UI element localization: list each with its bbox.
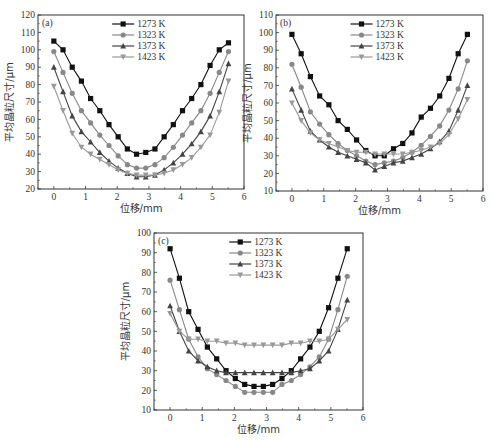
square-marker [345,246,350,251]
circle-marker [198,108,203,113]
x-tick-label: 1 [200,413,205,423]
series-1423-K [51,79,231,179]
square-marker [167,246,172,251]
y-tick-label: 60 [142,307,152,317]
x-tick-label: 6 [242,192,247,202]
circle-marker [317,122,322,127]
square-marker [307,344,312,349]
x-tick-label: 3 [264,413,269,423]
square-marker [214,356,219,361]
circle-marker [51,49,56,54]
circle-marker [152,162,157,167]
circle-marker [251,390,256,395]
series-1323-K [51,49,231,171]
triangle-down-marker [180,162,186,168]
triangle-up-marker [79,128,85,134]
x-tick-label: 4 [417,194,422,204]
square-marker [51,39,56,44]
x-tick-label: 4 [296,413,301,423]
circle-marker [180,132,185,137]
x-tick-label: 5 [449,194,454,204]
square-marker [70,65,75,70]
x-tick-label: 0 [51,192,56,202]
y-tick-label: 100 [259,28,274,38]
chart-panel-c: 1020304050607080901000123456位移/mm平均晶粒尺寸/… [119,228,366,435]
legend: 1273 K1323 K1373 K1423 K [112,19,165,62]
circle-marker [372,162,377,167]
square-marker [198,82,203,87]
legend-entry: 1323 K [137,30,165,40]
square-marker [336,118,341,123]
chart-panel-b: 1020304050607080901001100123456位移/mm平均晶粒… [241,10,486,216]
triangle-down-marker [106,162,112,168]
chart-panel-a: 20304050607080901001101200123456位移/mm平均晶… [3,10,247,214]
square-marker [177,276,182,281]
y-tick-label: 60 [264,98,274,108]
legend: 1273 K1323 K1373 K1423 K [351,19,404,62]
square-marker [134,152,139,157]
square-marker [335,276,340,281]
square-marker [400,141,405,146]
series-1423-K [289,97,470,157]
square-marker [121,21,126,26]
circle-marker [189,120,194,125]
y-tick-label: 20 [142,386,152,396]
square-marker [279,376,284,381]
square-marker [88,96,93,101]
y-tick-label: 80 [264,63,274,73]
x-tick-label: 6 [481,194,486,204]
circle-marker [121,32,126,37]
triangle-up-marker [60,88,66,94]
square-marker [195,327,200,332]
square-marker [79,79,84,84]
triangle-down-marker [464,97,470,103]
circle-marker [428,134,433,139]
circle-marker [261,390,266,395]
circle-marker [456,86,461,91]
square-marker [326,305,331,310]
square-marker [456,51,461,56]
y-tick-label: 30 [142,366,152,376]
y-tick-label: 20 [26,184,36,194]
legend-entry: 1373 K [376,41,404,51]
x-tick-label: 5 [328,413,333,423]
y-tick-label: 50 [142,327,152,337]
circle-marker [60,70,65,75]
y-tick-label: 70 [142,287,152,297]
x-tick-label: 2 [232,413,237,423]
circle-marker [207,91,212,96]
square-marker [60,47,65,52]
triangle-down-marker [167,311,173,317]
triangle-down-marker [88,152,94,158]
x-axis-label: 位移/mm [358,204,401,216]
x-tick-label: 1 [321,194,326,204]
square-marker [180,108,185,113]
y-axis-label: 平均晶粒尺寸/μm [3,62,15,141]
figure-caption-faded [150,430,380,442]
triangle-up-marker [289,86,295,92]
square-marker [251,384,256,389]
circle-marker [419,143,424,148]
circle-marker [289,62,294,67]
circle-marker [223,378,228,383]
circle-marker [116,153,121,158]
x-tick-label: 6 [361,413,366,423]
triangle-up-marker [455,107,461,113]
series-1323-K [167,274,349,395]
triangle-up-marker [207,113,213,119]
square-marker [217,47,222,52]
circle-marker [299,85,304,90]
legend-entry: 1423 K [254,270,282,280]
square-marker [354,137,359,142]
circle-marker [345,274,350,279]
circle-marker [162,155,167,160]
y-tick-label: 80 [142,268,152,278]
legend-entry: 1373 K [137,41,165,51]
series-1373-K [289,82,470,172]
circle-marker [446,107,451,112]
circle-marker [106,143,111,148]
y-tick-label: 110 [21,28,35,38]
square-marker [317,93,322,98]
square-marker [143,150,148,155]
square-marker [242,382,247,387]
